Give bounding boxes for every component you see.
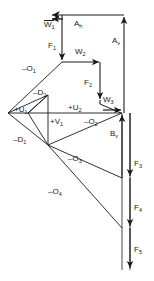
label-O3: –O3 <box>68 155 82 163</box>
label-U1: +U1 <box>14 106 28 114</box>
connector-W3-diagonal <box>100 104 121 113</box>
label-Av: Av <box>112 37 120 45</box>
label-W2: W2 <box>75 48 86 56</box>
label-W1: W1 <box>44 21 55 29</box>
edge-chord-to-midlower <box>28 113 48 145</box>
label-W3: W3 <box>103 96 114 104</box>
label-O4: –O4 <box>48 188 62 196</box>
vector-O4 <box>48 145 122 228</box>
label-F4: F4 <box>134 204 142 212</box>
label-D2: –D2 <box>33 89 46 97</box>
overbar-W1 <box>44 20 54 21</box>
cremona-diagram: W1 Ah Av F1 W2 F2 W3 –O1 –D2 +U1 +U2 +V1… <box>0 0 154 281</box>
label-Ah: Ah <box>74 20 82 28</box>
label-F5: F5 <box>134 246 142 254</box>
label-F2: F2 <box>84 79 92 87</box>
label-F3: F3 <box>134 160 142 168</box>
label-D1: –D1 <box>13 136 26 144</box>
label-F1: F1 <box>48 42 56 50</box>
vector-O3 <box>48 145 122 178</box>
label-O1: –O1 <box>22 65 36 73</box>
label-V1: +V1 <box>50 118 63 126</box>
label-U2: +U2 <box>68 104 82 112</box>
label-O2: –O2 <box>84 118 98 126</box>
label-Bv: Bv <box>110 130 118 138</box>
